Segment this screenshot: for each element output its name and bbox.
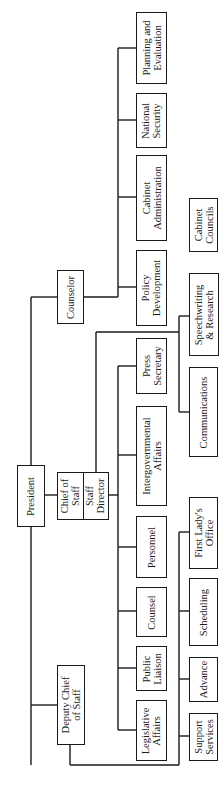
node-label: First Lady's Office — [193, 508, 215, 557]
node-label: Planning and Evaluation — [141, 20, 163, 75]
node-label: Public Liaison — [141, 653, 163, 685]
node-label: Cabinet Administration — [141, 166, 163, 230]
node-label: Policy Development — [141, 260, 163, 317]
node-label: Intergovernmental Affairs — [141, 417, 163, 494]
node-press-secretary: Press Secretary — [136, 338, 167, 394]
node-label: Legislative Affairs — [141, 707, 163, 754]
node-personnel: Personnel — [136, 516, 167, 578]
node-planning-evaluation: Planning and Evaluation — [136, 12, 167, 84]
node-scheduling: Scheduling — [189, 578, 218, 646]
node-label: Cabinet Councils — [193, 206, 215, 243]
node-counsel: Counsel — [136, 587, 167, 637]
node-label: National Security — [141, 102, 163, 138]
node-legislative-affairs: Legislative Affairs — [136, 700, 167, 761]
node-label: Support Services — [193, 719, 215, 755]
node-speechwriting-research: Speechwriting & Research — [189, 273, 219, 356]
node-label: Scheduling — [198, 588, 209, 635]
node-label: Speechwriting & Research — [193, 284, 215, 345]
node-chief-of-staff-half: Chief of Staff — [58, 473, 83, 519]
node-label: Counselor — [65, 275, 76, 318]
node-label: Press Secretary — [141, 346, 163, 386]
node-president: President — [17, 465, 45, 527]
node-counselor: Counselor — [57, 270, 84, 324]
node-label: Personnel — [146, 526, 157, 567]
node-advance: Advance — [189, 657, 218, 702]
node-label: President — [26, 476, 37, 515]
node-policy-development: Policy Development — [136, 250, 167, 326]
node-deputy-chief: Deputy Chief of Staff — [57, 665, 85, 745]
node-intergovernmental-affairs: Intergovernmental Affairs — [136, 406, 167, 506]
node-national-security: National Security — [136, 93, 167, 148]
node-label: Counsel — [146, 595, 157, 629]
node-chief-of-staff: Chief of Staff Staff Director — [57, 472, 109, 520]
node-first-ladys-office: First Lady's Office — [189, 497, 218, 569]
node-cabinet-councils: Cabinet Councils — [189, 198, 218, 252]
node-staff-director-half: Staff Director — [83, 473, 109, 519]
node-label: Deputy Chief of Staff — [60, 677, 82, 734]
node-label: Chief of Staff — [59, 479, 81, 514]
node-support-services: Support Services — [189, 713, 218, 761]
node-label: Communications — [198, 376, 209, 448]
node-public-liaison: Public Liaison — [136, 646, 167, 691]
node-label: Staff Director — [85, 479, 107, 514]
node-cabinet-administration: Cabinet Administration — [136, 155, 167, 241]
node-communications: Communications — [189, 367, 218, 457]
node-label: Advance — [198, 661, 209, 698]
